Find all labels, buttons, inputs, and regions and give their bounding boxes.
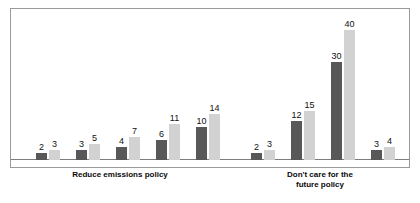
bar-group: 3 5: [76, 144, 100, 160]
bar-slot-light: 3: [49, 150, 60, 160]
bar-value-label: 2: [39, 143, 44, 152]
bar-group: 2 3: [251, 150, 275, 160]
bar-slot-light: 15: [304, 111, 315, 160]
bar-slot-dark: 4: [116, 147, 127, 160]
bar-value-label: 12: [291, 111, 301, 120]
bar-slot-light: 40: [344, 30, 355, 160]
bar-value-label: 6: [159, 130, 164, 139]
bar-dark[interactable]: [116, 147, 127, 160]
bar-dark[interactable]: [331, 62, 342, 160]
bar-slot-light: 3: [264, 150, 275, 160]
bar-value-label: 40: [344, 20, 354, 29]
bar-light[interactable]: [384, 147, 395, 160]
bar-light[interactable]: [89, 144, 100, 160]
bar-value-label: 11: [170, 114, 179, 123]
bar-value-label: 4: [387, 137, 392, 146]
bar-dark[interactable]: [291, 121, 302, 160]
bar-dark[interactable]: [36, 153, 47, 160]
bar-light[interactable]: [209, 114, 220, 160]
bar-chart: 2 3 3 5 4 7: [0, 0, 420, 203]
bar-slot-dark: 6: [156, 140, 167, 160]
bar-slot-dark: 10: [196, 127, 207, 160]
bar-slot-dark: 2: [36, 153, 47, 160]
bar-value-label: 3: [267, 140, 272, 149]
bar-group: 10 14: [196, 114, 220, 160]
bar-value-label: 10: [196, 117, 206, 126]
bar-group: 2 3: [36, 150, 60, 160]
bar-value-label: 15: [304, 101, 314, 110]
bar-slot-light: 7: [129, 137, 140, 160]
bar-light[interactable]: [129, 137, 140, 160]
category-label-dont-care-future-policy: Don't care for the future policy: [245, 170, 395, 190]
bar-value-label: 14: [209, 104, 219, 113]
category-label-reduce-emissions-policy: Reduce emissions policy: [25, 170, 215, 180]
bar-dark[interactable]: [196, 127, 207, 160]
bar-slot-dark: 3: [371, 150, 382, 160]
bar-light[interactable]: [264, 150, 275, 160]
bar-value-label: 7: [132, 127, 137, 136]
bar-value-label: 3: [374, 140, 379, 149]
bar-dark[interactable]: [251, 153, 262, 160]
bar-dark[interactable]: [371, 150, 382, 160]
bar-value-label: 30: [331, 52, 341, 61]
bar-slot-dark: 30: [331, 62, 342, 160]
bar-slot-light: 11: [169, 124, 180, 160]
bar-dark[interactable]: [156, 140, 167, 160]
bar-slot-light: 14: [209, 114, 220, 160]
bar-dark[interactable]: [76, 150, 87, 160]
bar-value-label: 3: [79, 140, 84, 149]
bar-group: 3 4: [371, 147, 395, 160]
bar-value-label: 4: [119, 137, 124, 146]
bar-slot-dark: 12: [291, 121, 302, 160]
bar-light[interactable]: [49, 150, 60, 160]
bar-slot-dark: 3: [76, 150, 87, 160]
bar-value-label: 3: [52, 140, 57, 149]
bar-value-label: 2: [254, 143, 259, 152]
bar-light[interactable]: [169, 124, 180, 160]
bar-group: 12 15: [291, 111, 315, 160]
bar-slot-light: 4: [384, 147, 395, 160]
bar-value-label: 5: [92, 134, 97, 143]
bar-light[interactable]: [344, 30, 355, 160]
bar-group: 6 11: [156, 124, 180, 160]
bar-group: 4 7: [116, 137, 140, 160]
bar-group: 30 40: [331, 30, 355, 160]
bar-slot-dark: 2: [251, 153, 262, 160]
bar-slot-light: 5: [89, 144, 100, 160]
bar-light[interactable]: [304, 111, 315, 160]
